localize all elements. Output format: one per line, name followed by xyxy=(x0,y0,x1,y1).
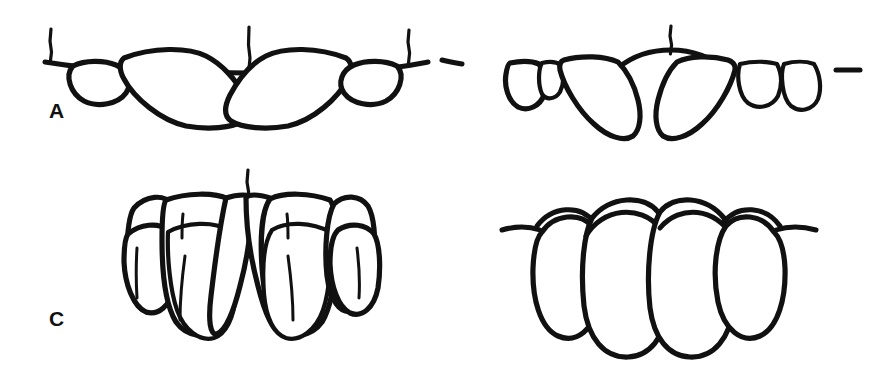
tooth-detail-line-left-outer xyxy=(136,248,137,298)
tooth-right-lateral-incisor-front xyxy=(330,225,380,314)
tooth-detail-line-left-inner xyxy=(182,214,183,238)
panel-c-drawing xyxy=(0,0,440,368)
panel-label-c: C xyxy=(49,308,65,329)
panel-d-drawing xyxy=(440,0,874,368)
left-gingival-line xyxy=(502,227,540,230)
panel-c: C xyxy=(0,0,440,368)
tooth-detail-line-right-inner xyxy=(287,214,288,238)
figure-root: A B xyxy=(0,0,874,368)
panel-d: D xyxy=(440,0,874,368)
tooth-right-lateral-incisor xyxy=(715,217,785,338)
